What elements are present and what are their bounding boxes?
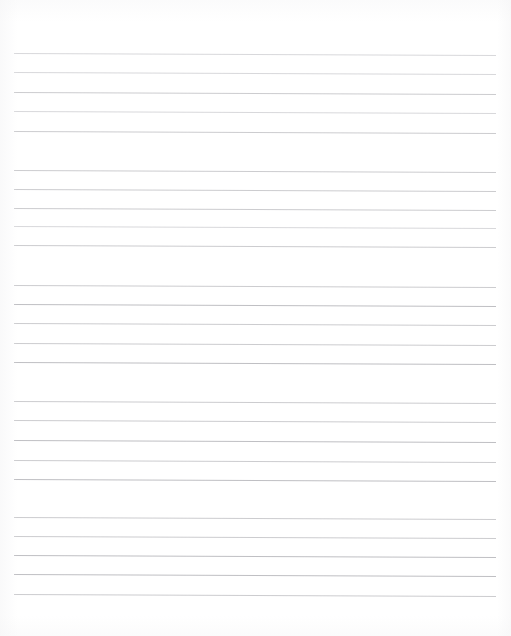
ruled-line	[14, 245, 496, 248]
ruled-line	[14, 460, 496, 463]
ruled-line	[14, 362, 496, 365]
ruled-line	[14, 401, 496, 404]
ruled-line	[14, 343, 496, 346]
ruled-line	[14, 92, 496, 95]
ruled-line	[14, 555, 496, 558]
ruled-line	[14, 170, 496, 173]
ruled-line	[14, 536, 496, 539]
ruled-line	[14, 208, 496, 211]
ruled-line	[14, 111, 496, 114]
lined-paper-page	[0, 0, 511, 636]
ruled-line	[14, 131, 496, 134]
ruled-line	[14, 285, 496, 288]
ruled-line	[14, 189, 496, 192]
ruled-line	[14, 72, 496, 75]
ruled-line	[14, 53, 496, 56]
ruled-line	[14, 517, 496, 520]
ruled-line	[14, 226, 496, 229]
ruled-line	[14, 304, 496, 307]
ruled-line	[14, 479, 496, 482]
ruled-line	[14, 594, 496, 597]
ruled-line	[14, 323, 496, 326]
ruled-line	[14, 440, 496, 443]
ruled-lines-layer	[0, 0, 511, 636]
ruled-line	[14, 574, 496, 577]
ruled-line	[14, 420, 496, 423]
